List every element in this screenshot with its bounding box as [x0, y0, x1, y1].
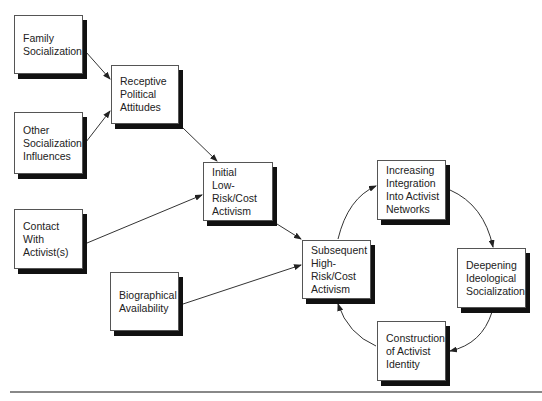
node-label-line: High-	[311, 257, 370, 270]
node-biographical-availability: Biographical Availability	[110, 272, 179, 331]
node-initial-low-risk-activism: Initial Low- Risk/Cost Activism	[203, 162, 273, 221]
node-label-line: Low-	[212, 179, 272, 192]
node-label-line: Deepening	[466, 259, 525, 272]
edge-subsequent-integration	[338, 186, 376, 239]
node-label-line: Construction	[386, 332, 445, 345]
node-label-line: Biographical	[119, 289, 178, 302]
node-label-line: of Activist	[386, 345, 445, 358]
edge-receptive-initial	[183, 128, 217, 161]
edge-initial-subsequent	[277, 224, 301, 239]
node-label-line: Activist(s)	[23, 246, 82, 259]
bottom-rule-divider	[10, 391, 542, 393]
node-subsequent-high-risk-activism: Subsequent High- Risk/Cost Activism	[302, 240, 371, 299]
node-contact-with-activists: Contact With Activist(s)	[14, 209, 83, 269]
edge-biographical-subsequent	[183, 265, 301, 304]
node-label-line: Activism	[212, 205, 272, 218]
node-other-socialization-influences: Other Socialization Influences	[14, 112, 83, 174]
node-label-line: Attitudes	[120, 101, 178, 114]
node-label-line: Risk/Cost	[311, 270, 370, 283]
node-family-socialization: Family Socialization	[14, 15, 83, 74]
node-label-line: Increasing	[386, 164, 445, 177]
node-label-line: Other	[23, 124, 82, 137]
node-label-line: Socialization	[23, 137, 82, 150]
node-label-line: Socialization	[466, 285, 525, 298]
node-label-line: Subsequent	[311, 244, 370, 257]
edge-construction-subsequent	[338, 304, 376, 346]
node-label-line: Family	[23, 32, 82, 45]
node-label-line: Integration	[386, 177, 445, 190]
node-label-line: Socialization	[23, 45, 82, 58]
edge-family-receptive	[86, 52, 110, 79]
edge-deepening-construction	[450, 312, 492, 351]
node-label-line: Risk/Cost	[212, 192, 272, 205]
node-label-line: Activism	[311, 283, 370, 296]
node-label-line: Availability	[119, 302, 178, 315]
node-label-line: Contact	[23, 220, 82, 233]
node-increasing-integration: Increasing Integration Into Activist Net…	[377, 160, 446, 220]
node-deepening-ideological-socialization: Deepening Ideological Socialization	[457, 248, 526, 308]
node-label-line: Networks	[386, 203, 445, 216]
node-label-line: Ideological	[466, 272, 525, 285]
node-label-line: Political	[120, 88, 178, 101]
edge-contact-initial	[87, 195, 202, 243]
node-label-line: Into Activist	[386, 190, 445, 203]
node-label-line: Receptive	[120, 75, 178, 88]
edge-other-receptive	[86, 111, 110, 142]
node-receptive-political-attitudes: Receptive Political Attitudes	[111, 65, 179, 124]
node-label-line: Identity	[386, 358, 445, 371]
node-label-line: Influences	[23, 150, 82, 163]
node-label-line: Initial	[212, 166, 272, 179]
edge-integration-deepening	[450, 190, 493, 247]
node-construction-activist-identity: Construction of Activist Identity	[377, 321, 446, 381]
node-label-line: With	[23, 233, 82, 246]
